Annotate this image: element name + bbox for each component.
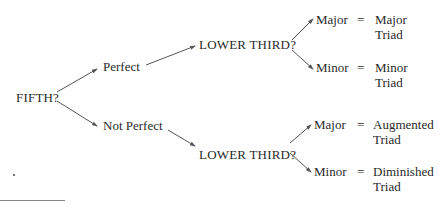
arrow-fifth-to-not-perfect <box>57 101 97 126</box>
result-augmented-triad-line1: Augmented <box>373 118 434 132</box>
result-diminished-triad-line1: Diminished <box>373 165 434 179</box>
outcome-third-major-top: Major <box>316 13 348 27</box>
stray-dot <box>13 174 15 176</box>
question-lower-third-top: LOWER THIRD? <box>199 38 296 52</box>
equals-sign: = <box>357 13 364 27</box>
arrow-bottom-to-major <box>290 125 311 143</box>
equals-sign: = <box>357 165 364 179</box>
equals-sign: = <box>357 118 364 132</box>
outcome-third-major-bottom: Major <box>314 118 346 132</box>
arrow-perfect-to-lower-third <box>146 46 195 65</box>
outcome-third-minor-bottom: Minor <box>314 165 347 179</box>
arrow-fifth-to-perfect <box>57 69 97 92</box>
branch-perfect: Perfect <box>103 60 140 74</box>
result-minor-triad-line1: Minor <box>375 61 408 75</box>
outcome-third-minor-top: Minor <box>316 61 349 75</box>
arrow-top-to-minor <box>292 50 313 69</box>
result-diminished-triad-line2: Triad <box>373 180 401 194</box>
footnote-rule <box>0 200 65 201</box>
result-major-triad-line2: Triad <box>375 28 403 42</box>
result-major-triad-line1: Major <box>375 13 407 27</box>
question-lower-third-bottom: LOWER THIRD? <box>199 148 296 162</box>
arrow-not-perfect-to-lower-third <box>168 130 195 146</box>
result-augmented-triad-line2: Triad <box>373 133 401 147</box>
equals-sign: = <box>357 61 364 75</box>
root-question-fifth: FIFTH? <box>16 91 59 105</box>
result-minor-triad-line2: Triad <box>375 76 403 90</box>
branch-not-perfect: Not Perfect <box>103 119 163 133</box>
